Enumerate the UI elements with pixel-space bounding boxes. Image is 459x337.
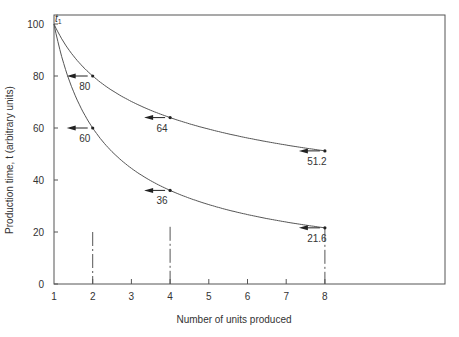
- y-tick-label: 40: [33, 175, 45, 186]
- data-point: [323, 149, 326, 152]
- x-axis-title: Number of units produced: [176, 314, 291, 325]
- data-point: [91, 126, 94, 129]
- x-tick-label: 4: [167, 291, 173, 302]
- arrowhead-icon: [67, 126, 76, 131]
- x-axis-ticks: 12345678: [51, 279, 328, 302]
- x-tick-label: 5: [206, 291, 212, 302]
- arrowhead-icon: [299, 225, 308, 230]
- y-axis-title: Production time, t (arbitrary units): [4, 86, 15, 234]
- y-tick-label: 100: [27, 19, 44, 30]
- data-point: [169, 189, 172, 192]
- arrowhead-icon: [299, 148, 308, 153]
- plot-frame: [54, 15, 445, 284]
- x-tick-label: 1: [51, 291, 57, 302]
- reference-lines: [93, 227, 325, 284]
- y-tick-label: 80: [33, 71, 45, 82]
- x-tick-label: 3: [129, 291, 135, 302]
- point-label: 51.2: [307, 156, 327, 167]
- point-label: 21.6: [307, 233, 327, 244]
- data-points: 806451.2603621.6: [67, 74, 327, 244]
- data-point: [91, 74, 94, 77]
- learning-curve-chart: 806451.2603621.6 12345678 020406080100 t…: [0, 0, 459, 337]
- point-label: 36: [157, 195, 169, 206]
- arrowhead-icon: [144, 115, 153, 120]
- curves: [54, 24, 325, 228]
- y-axis-ticks: 020406080100: [27, 19, 58, 290]
- x-tick-label: 2: [90, 291, 96, 302]
- point-label: 60: [79, 133, 91, 144]
- point-label: 80: [79, 81, 91, 92]
- data-point: [169, 116, 172, 119]
- x-tick-label: 6: [245, 291, 251, 302]
- learning-curve: [54, 24, 325, 151]
- x-tick-label: 8: [322, 291, 328, 302]
- data-point: [323, 226, 326, 229]
- y-tick-label: 20: [33, 227, 45, 238]
- arrowhead-icon: [144, 188, 153, 193]
- y-tick-label: 0: [38, 279, 44, 290]
- y-tick-label: 60: [33, 123, 45, 134]
- plot-border: [54, 15, 445, 284]
- point-label: 64: [157, 123, 169, 134]
- x-tick-label: 7: [283, 291, 289, 302]
- learning-curve: [54, 24, 325, 228]
